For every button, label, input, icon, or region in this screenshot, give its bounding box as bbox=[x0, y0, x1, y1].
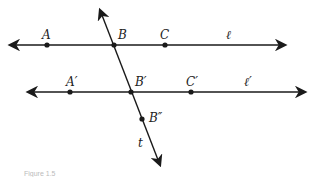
point-B-prime bbox=[128, 89, 133, 94]
label-line-l: ℓ bbox=[226, 29, 231, 41]
point-B bbox=[111, 42, 116, 47]
label-A: A bbox=[42, 29, 51, 41]
transversal-t bbox=[100, 10, 160, 165]
label-line-l-prime: ℓ′ bbox=[244, 76, 252, 88]
point-A bbox=[44, 42, 49, 47]
point-C bbox=[162, 42, 167, 47]
label-transversal-t: t bbox=[138, 137, 143, 149]
point-C-prime bbox=[188, 89, 193, 94]
label-B-double-prime: B″ bbox=[149, 112, 162, 124]
parallel-lines-diagram bbox=[0, 0, 315, 177]
label-B: B bbox=[118, 29, 127, 41]
label-B-prime: B′ bbox=[135, 76, 147, 88]
point-B-double-prime bbox=[139, 116, 144, 121]
point-A-prime bbox=[67, 89, 72, 94]
label-C: C bbox=[160, 29, 169, 41]
label-C-prime: C′ bbox=[186, 76, 198, 88]
label-A-prime: A′ bbox=[66, 76, 77, 88]
figure-caption: Figure 1.5 bbox=[24, 170, 56, 177]
